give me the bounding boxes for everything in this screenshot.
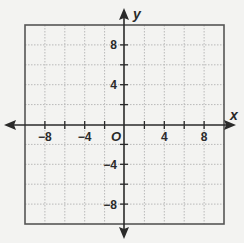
origin-label: O [111,129,121,144]
x-tick-labels: −8−448 [38,130,208,144]
x-tick-label: 8 [201,130,208,144]
x-tick-label: −4 [78,130,92,144]
y-tick-label: −8 [103,198,117,212]
coordinate-plane: x y O −8−448 84−4−8 [0,0,244,243]
y-tick-label: 8 [110,38,117,52]
y-tick-label: −4 [103,158,117,172]
x-tick-label: 4 [161,130,168,144]
x-tick-label: −8 [38,130,52,144]
x-axis-label: x [229,107,239,123]
y-tick-label: 4 [110,78,117,92]
y-axis-label: y [132,6,142,22]
